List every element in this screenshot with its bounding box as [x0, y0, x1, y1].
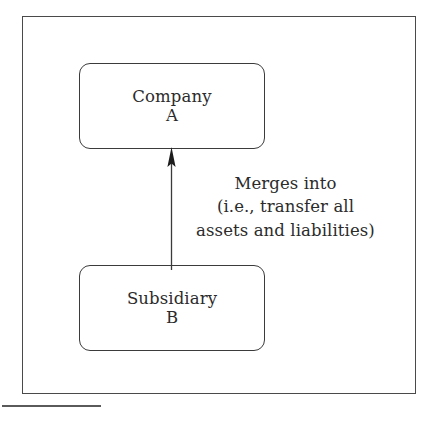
caption-rule [2, 405, 101, 407]
merge-annotation-line-2: (i.e., transfer all [178, 195, 393, 218]
node-subsidiary-b-name: Subsidiary [127, 289, 217, 308]
merge-annotation-line-1: Merges into [178, 172, 393, 195]
node-subsidiary-b[interactable]: Subsidiary B [79, 265, 265, 351]
node-company-a-designator: A [166, 106, 178, 125]
node-subsidiary-b-designator: B [166, 308, 178, 327]
node-company-a-name: Company [132, 87, 211, 106]
merge-annotation-line-3: assets and liabilities) [178, 219, 393, 242]
merge-annotation-label: Merges into (i.e., transfer all assets a… [178, 172, 393, 242]
node-company-a[interactable]: Company A [79, 63, 265, 149]
diagram-canvas: Company A Subsidiary B Merges into (i.e.… [0, 0, 435, 421]
